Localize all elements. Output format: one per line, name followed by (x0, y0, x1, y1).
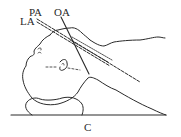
label-c: C (84, 121, 91, 133)
label-la: LA (20, 15, 35, 27)
arm-outline (90, 37, 165, 46)
label-oa: OA (54, 6, 70, 18)
eye-mark (38, 48, 41, 50)
brow-mark (38, 52, 41, 53)
positioning-diagram: PA LA OA C (0, 0, 181, 137)
ear (60, 59, 68, 70)
head-outline (23, 35, 88, 105)
line-pa-band (72, 37, 112, 60)
ear-inner (62, 63, 64, 65)
neck-shoulder-outline (88, 77, 166, 115)
line-la (37, 22, 110, 66)
ear-reference-line-right (68, 68, 80, 70)
line-oa (61, 17, 89, 74)
